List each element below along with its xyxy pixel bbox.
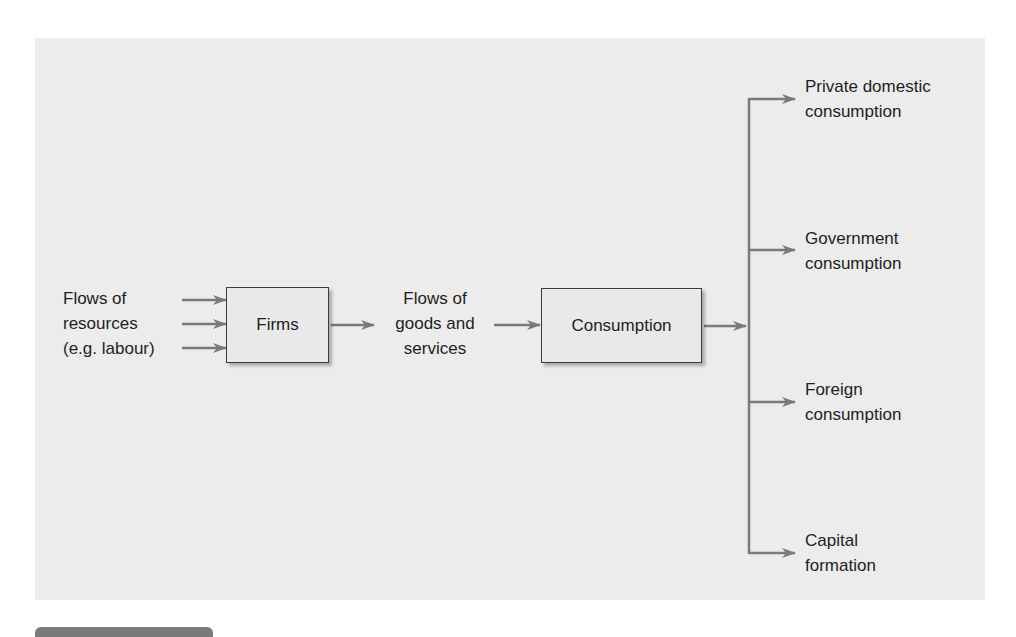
- resource-flows-label: Flows of resources (e.g. labour): [63, 286, 155, 361]
- firms-label: Firms: [256, 315, 298, 335]
- output-private-domestic: Private domestic consumption: [805, 74, 931, 124]
- output-foreign: Foreign consumption: [805, 377, 901, 427]
- firms-box: Firms: [226, 287, 329, 363]
- output-capital-formation: Capital formation: [805, 528, 876, 578]
- output-government: Government consumption: [805, 226, 901, 276]
- goods-services-label: Flows of goods and services: [380, 286, 490, 361]
- figure-caption-tab: [35, 627, 213, 637]
- consumption-box: Consumption: [541, 288, 702, 363]
- consumption-label: Consumption: [571, 316, 671, 336]
